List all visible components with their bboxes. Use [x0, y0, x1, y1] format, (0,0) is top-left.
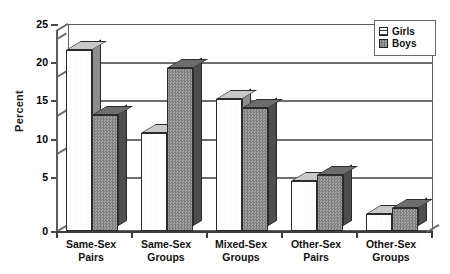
x-label-line-2: Groups	[198, 251, 284, 264]
legend-swatch-boys-icon	[379, 39, 388, 48]
bar-front-face	[291, 181, 317, 231]
x-label-line-2: Pairs	[48, 251, 134, 264]
bar-boys-other-sex-groups	[392, 208, 418, 231]
bar-girls-other-sex-groups	[366, 214, 392, 231]
x-label-line-1: Other-Sex	[273, 238, 359, 251]
legend-label-boys: Boys	[392, 38, 416, 49]
bar-boys-mixed-sex-groups	[242, 108, 268, 231]
legend-label-girls: Girls	[392, 26, 415, 37]
bar-side-face	[268, 97, 277, 226]
x-label-same-sex-groups: Same-Sex Groups	[123, 238, 209, 263]
bar-girls-same-sex-pairs	[66, 50, 92, 231]
bar-front-face	[317, 175, 343, 231]
bar-front-face	[216, 99, 242, 231]
chart-container: Percent 25 20 15 10 5 0 Same-Sex Pairs S…	[0, 0, 450, 274]
x-label-line-2: Pairs	[273, 251, 359, 264]
bar-front-face	[92, 115, 118, 231]
legend-swatch-girls-icon	[379, 27, 388, 36]
x-label-line-1: Same-Sex	[123, 238, 209, 251]
x-label-line-1: Mixed-Sex	[198, 238, 284, 251]
x-label-line-2: Groups	[123, 251, 209, 264]
bar-side-face	[118, 105, 127, 226]
legend-item-boys: Boys	[379, 38, 433, 49]
bar-boys-same-sex-groups	[167, 68, 193, 231]
x-label-line-1: Same-Sex	[48, 238, 134, 251]
x-label-other-sex-groups: Other-Sex Groups	[348, 238, 434, 263]
x-label-mixed-sex-groups: Mixed-Sex Groups	[198, 238, 284, 263]
x-label-same-sex-pairs: Same-Sex Pairs	[48, 238, 134, 263]
bar-boys-other-sex-pairs	[317, 175, 343, 231]
legend: Girls Boys	[374, 20, 436, 56]
x-label-line-2: Groups	[348, 251, 434, 264]
bar-front-face	[242, 108, 268, 231]
bar-side-face	[193, 57, 202, 226]
bar-boys-same-sex-pairs	[92, 115, 118, 231]
legend-item-girls: Girls	[379, 26, 433, 37]
bar-front-face	[392, 208, 418, 231]
bar-front-face	[66, 50, 92, 231]
bar-front-face	[366, 214, 392, 231]
x-label-line-1: Other-Sex	[348, 238, 434, 251]
bar-front-face	[167, 68, 193, 231]
bar-girls-same-sex-groups	[141, 133, 167, 231]
bar-front-face	[141, 133, 167, 231]
bar-girls-mixed-sex-groups	[216, 99, 242, 231]
bar-girls-other-sex-pairs	[291, 181, 317, 231]
x-label-other-sex-pairs: Other-Sex Pairs	[273, 238, 359, 263]
